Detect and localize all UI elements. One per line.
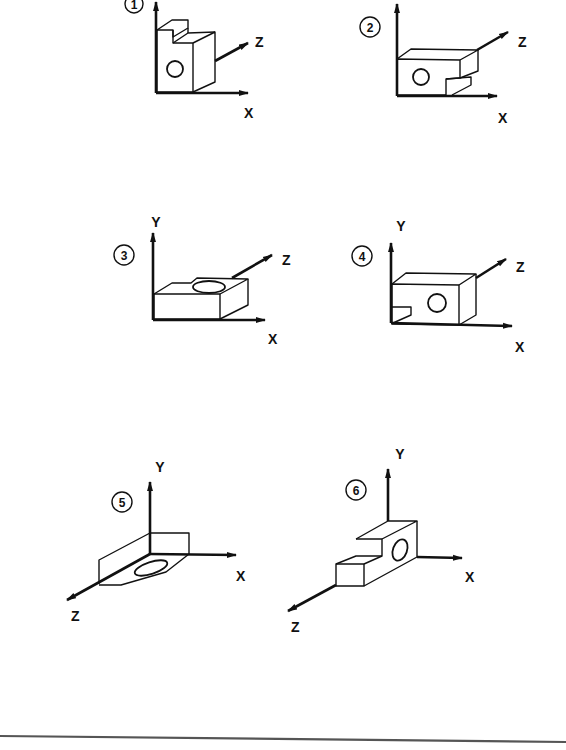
z-axis xyxy=(288,585,336,611)
svg-text:Z: Z xyxy=(255,34,264,50)
svg-text:X: X xyxy=(244,105,254,121)
part-2 xyxy=(397,49,478,95)
view-2-number-badge: 2 xyxy=(360,17,380,37)
view-4: 4 Y Z X xyxy=(352,218,525,355)
svg-text:Y: Y xyxy=(155,459,165,475)
z-axis xyxy=(232,255,272,278)
view-5-number-badge: 5 xyxy=(112,492,132,512)
svg-text:Y: Y xyxy=(151,214,161,230)
view-3: 3 Y Z X xyxy=(114,214,291,347)
view-6: 6 Y X Z xyxy=(288,446,475,635)
svg-text:X: X xyxy=(236,568,246,584)
orientation-diagram: 1 Z X 2 Z X xyxy=(0,0,566,750)
x-axis xyxy=(417,557,462,558)
svg-text:1: 1 xyxy=(131,0,138,12)
svg-text:3: 3 xyxy=(121,249,128,263)
svg-text:Y: Y xyxy=(396,218,406,234)
svg-text:Z: Z xyxy=(282,252,291,268)
x-axis xyxy=(150,554,236,555)
svg-text:X: X xyxy=(268,331,278,347)
view-3-number-badge: 3 xyxy=(114,245,134,265)
z-axis xyxy=(67,554,150,600)
svg-text:X: X xyxy=(515,339,525,355)
svg-text:4: 4 xyxy=(359,250,366,264)
part-3 xyxy=(154,278,248,319)
svg-text:X: X xyxy=(465,569,475,585)
svg-text:6: 6 xyxy=(353,484,360,498)
svg-text:2: 2 xyxy=(367,21,374,35)
svg-text:Z: Z xyxy=(516,259,525,275)
svg-text:Z: Z xyxy=(291,619,300,635)
part-6 xyxy=(336,521,417,586)
view-6-number-badge: 6 xyxy=(346,480,366,500)
bottom-rule xyxy=(0,736,566,742)
view-5: 5 Y X Z xyxy=(67,459,246,624)
view-2: 2 Z X xyxy=(360,4,527,126)
svg-text:5: 5 xyxy=(119,496,126,510)
svg-text:Z: Z xyxy=(71,608,80,624)
view-4-number-badge: 4 xyxy=(352,246,372,266)
view-1-number-badge: 1 xyxy=(125,0,143,13)
view-1: 1 Z X xyxy=(125,0,264,121)
part-1 xyxy=(157,20,215,92)
svg-text:Y: Y xyxy=(395,446,405,462)
z-axis xyxy=(476,259,506,278)
z-axis xyxy=(477,32,508,50)
svg-text:Z: Z xyxy=(518,34,527,50)
part-4 xyxy=(392,273,476,325)
part-5 xyxy=(99,533,189,585)
svg-text:X: X xyxy=(498,110,508,126)
z-axis xyxy=(215,43,248,61)
